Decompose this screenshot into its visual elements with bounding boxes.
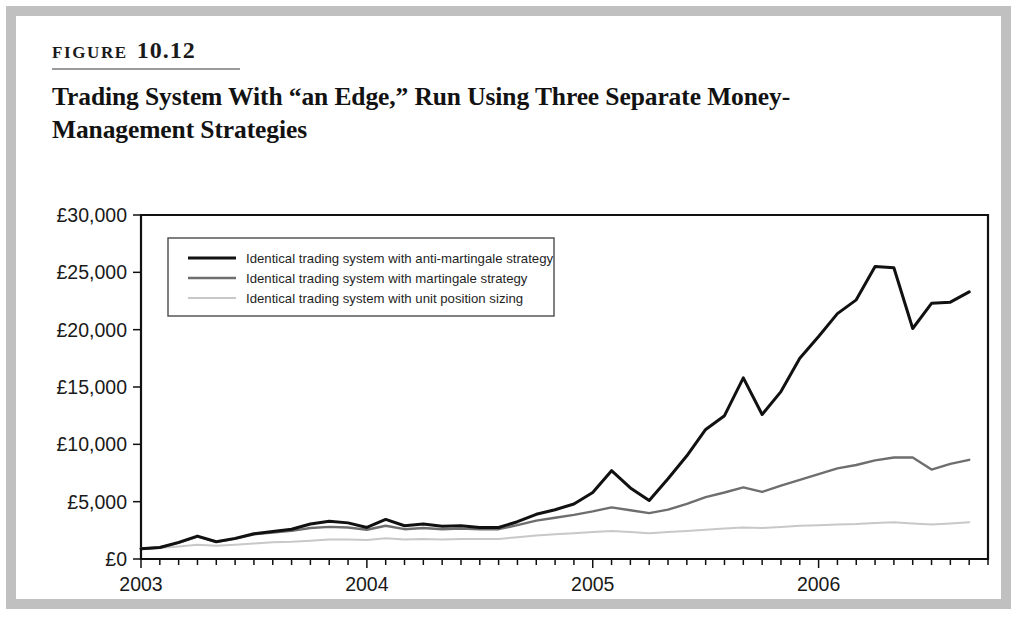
x-axis-label: 2003 <box>119 573 162 595</box>
figure-caption: FIGURE10.12 Trading System With “an Edge… <box>52 38 932 146</box>
y-axis-label: £0 <box>105 548 127 570</box>
legend-label: Identical trading system with martingale… <box>246 271 528 286</box>
figure-label-word: FIGURE <box>52 43 128 62</box>
y-axis-label: £15,000 <box>57 376 128 398</box>
y-axis-label: £30,000 <box>57 204 128 226</box>
y-axis-label: £25,000 <box>57 261 128 283</box>
figure-label-row: FIGURE10.12 <box>52 38 932 67</box>
y-axis-label: £20,000 <box>57 319 128 341</box>
x-axis-tick-labels: 2003200420052006 <box>119 573 840 595</box>
figure-page: FIGURE10.12 Trading System With “an Edge… <box>0 0 1025 623</box>
x-axis-label: 2005 <box>571 573 615 595</box>
y-axis-label: £10,000 <box>57 433 128 455</box>
chart-legend: Identical trading system with anti-marti… <box>168 238 554 316</box>
legend-label: Identical trading system with unit posit… <box>246 291 523 306</box>
figure-title: Trading System With “an Edge,” Run Using… <box>52 81 842 146</box>
figure-border: FIGURE10.12 Trading System With “an Edge… <box>6 6 1011 609</box>
x-axis-tick-marks <box>141 559 988 568</box>
figure-content: FIGURE10.12 Trading System With “an Edge… <box>16 16 1001 599</box>
line-chart: £0£5,000£10,000£15,000£20,000£25,000£30,… <box>16 184 1001 599</box>
figure-number: 10.12 <box>137 37 196 63</box>
y-axis-label: £5,000 <box>67 491 127 513</box>
y-axis-tick-marks <box>133 215 141 559</box>
legend-label: Identical trading system with anti-marti… <box>246 251 554 266</box>
series-line <box>141 522 969 548</box>
figure-rule <box>52 68 240 70</box>
y-axis-tick-labels: £0£5,000£10,000£15,000£20,000£25,000£30,… <box>57 204 128 570</box>
x-axis-label: 2004 <box>345 573 389 595</box>
chart-area: £0£5,000£10,000£15,000£20,000£25,000£30,… <box>16 184 1001 599</box>
x-axis-label: 2006 <box>797 573 840 595</box>
